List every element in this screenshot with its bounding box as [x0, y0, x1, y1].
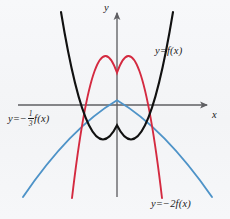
curve-label-neg-one-third-f: y=−13f(x)	[8, 110, 49, 127]
curve-label-neg-one-third-f-sign: −	[20, 113, 27, 124]
y-axis-label: y	[104, 3, 109, 14]
curve-label-neg-one-third-f-equals: =	[13, 113, 20, 124]
parabola-transformations-figure: y x y=f(x) y=−2f(x) y=−13f(x)	[0, 0, 230, 219]
curve-label-f-equals: =	[160, 45, 167, 56]
curve-label-neg-two-f-equals: =	[156, 198, 163, 209]
curve-label-f-rhs: f(x)	[167, 45, 182, 56]
curve-label-f: y=f(x)	[155, 46, 182, 57]
curve-label-neg-two-f-rhs: f(x)	[176, 198, 191, 209]
fraction-one-third: 13	[28, 110, 34, 127]
curve-label-neg-one-third-f-rhs: f(x)	[34, 113, 49, 124]
fraction-numerator: 1	[28, 110, 34, 119]
x-axis-label: x	[212, 110, 217, 121]
fraction-denominator: 3	[28, 119, 34, 127]
curve-label-neg-two-f: y=−2f(x)	[151, 199, 191, 210]
